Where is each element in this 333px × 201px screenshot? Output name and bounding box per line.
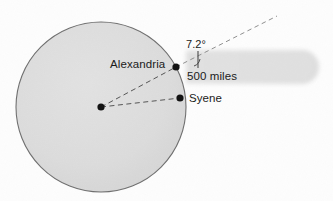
label-syene: Syene	[189, 93, 222, 105]
label-angle: 7.2°	[186, 39, 206, 50]
label-alexandria: Alexandria	[110, 59, 165, 71]
eratosthenes-diagram: Alexandria 500 miles Syene 7.2°	[0, 0, 333, 201]
diagram-canvas	[0, 0, 333, 201]
paper-grain-overlay	[0, 0, 333, 201]
label-distance: 500 miles	[187, 71, 237, 83]
